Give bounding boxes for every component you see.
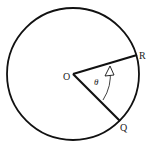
label-r: R: [139, 50, 146, 61]
arrowhead-icon: [105, 66, 114, 76]
radius-or: [73, 55, 137, 74]
circle-diagram: O R Q θ: [0, 0, 152, 147]
label-o: O: [63, 71, 70, 82]
label-theta: θ: [94, 77, 99, 87]
label-q: Q: [120, 122, 128, 133]
